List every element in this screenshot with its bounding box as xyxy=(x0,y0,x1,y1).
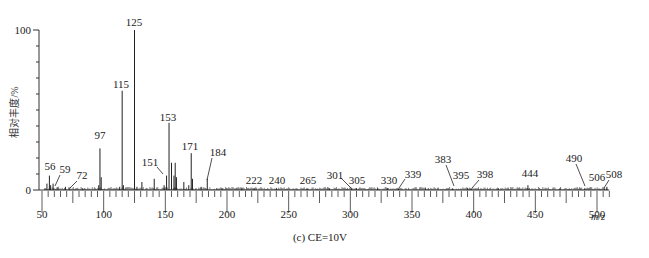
peak-label-56: 56 xyxy=(45,160,57,172)
x-tick-label: 250 xyxy=(280,208,297,220)
peak-label-240: 240 xyxy=(269,174,286,186)
peak-label-398: 398 xyxy=(477,168,494,180)
peak-label-383: 383 xyxy=(435,153,452,165)
mass-spectrum-chart: 0100 50100150200250300350400450500 56597… xyxy=(0,0,649,258)
chart-caption: (c) CE=10V xyxy=(293,231,347,244)
peaks xyxy=(47,30,607,190)
x-axis: 50100150200250300350400450500 xyxy=(37,190,610,220)
peak-label-444: 444 xyxy=(522,167,539,179)
y-axis-label: 相对丰度/% xyxy=(8,86,20,137)
peak-label-153: 153 xyxy=(160,111,177,123)
peak-label-265: 265 xyxy=(300,174,317,186)
peak-label-490: 490 xyxy=(566,152,583,164)
y-tick-label: 0 xyxy=(26,184,32,196)
peak-label-151: 151 xyxy=(142,156,159,168)
peak-label-301: 301 xyxy=(327,169,344,181)
peak-label-125: 125 xyxy=(126,16,143,28)
x-axis-unit-label: m/z xyxy=(591,211,605,222)
peak-label-222: 222 xyxy=(246,174,263,186)
peak-label-508: 508 xyxy=(606,168,623,180)
x-tick-label: 300 xyxy=(342,208,359,220)
peak-label-97: 97 xyxy=(95,129,107,141)
peak-label-59: 59 xyxy=(60,163,72,175)
x-tick-label: 100 xyxy=(95,208,112,220)
peak-label-330: 330 xyxy=(381,174,398,186)
peak-label-305: 305 xyxy=(349,174,366,186)
peak-labels: 5659729711512515115317118422224026530130… xyxy=(45,16,623,188)
x-tick-label: 350 xyxy=(404,208,421,220)
y-tick-label: 100 xyxy=(15,24,32,36)
peak-label-506: 506 xyxy=(589,171,606,183)
peak-label-171: 171 xyxy=(182,140,199,152)
x-tick-label: 450 xyxy=(527,208,544,220)
x-tick-label: 50 xyxy=(37,208,49,220)
x-tick-label: 400 xyxy=(465,208,482,220)
x-tick-label: 150 xyxy=(157,208,174,220)
x-tick-label: 200 xyxy=(219,208,236,220)
peak-label-395: 395 xyxy=(453,169,470,181)
peak-label-115: 115 xyxy=(113,78,130,90)
peak-label-184: 184 xyxy=(210,146,227,158)
peak-label-339: 339 xyxy=(405,168,422,180)
peak-label-72: 72 xyxy=(77,169,88,181)
